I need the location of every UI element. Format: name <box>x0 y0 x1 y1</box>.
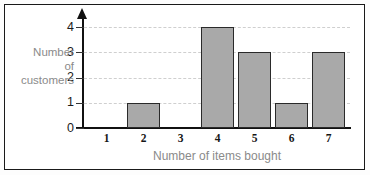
bar-7 <box>312 52 345 128</box>
y-axis-label-line-1: Number <box>8 45 74 59</box>
bar-4 <box>201 27 234 128</box>
y-tick-mark-1 <box>76 103 84 104</box>
y-tick-label-1: 1 <box>54 96 74 109</box>
chart-figure: 01234 1234567 Number of customers Number… <box>0 0 370 175</box>
y-tick-label-4: 4 <box>54 21 74 34</box>
y-axis-line <box>82 17 84 129</box>
plot-area: 01234 1234567 Number of customers Number… <box>0 0 370 175</box>
y-axis-label-line-3: customers <box>8 73 74 87</box>
bar-5 <box>238 52 271 128</box>
y-tick-mark-0 <box>76 128 84 129</box>
y-axis-arrow-icon <box>77 8 87 19</box>
x-tick-label-2: 2 <box>125 133 162 145</box>
y-tick-mark-3 <box>76 52 84 53</box>
x-tick-label-5: 5 <box>236 133 273 145</box>
y-axis-label-line-2: of <box>8 59 74 73</box>
bar-6 <box>275 103 308 128</box>
bar-2 <box>127 103 160 128</box>
x-tick-label-7: 7 <box>310 133 347 145</box>
x-tick-label-1: 1 <box>88 133 125 145</box>
y-tick-mark-2 <box>76 78 84 79</box>
x-tick-label-3: 3 <box>162 133 199 145</box>
x-tick-label-6: 6 <box>273 133 310 145</box>
x-tick-label-4: 4 <box>199 133 236 145</box>
y-tick-label-0: 0 <box>54 122 74 135</box>
y-tick-mark-4 <box>76 27 84 28</box>
y-axis-label: Number of customers <box>8 45 74 87</box>
x-axis-label: Number of items bought <box>84 150 350 162</box>
